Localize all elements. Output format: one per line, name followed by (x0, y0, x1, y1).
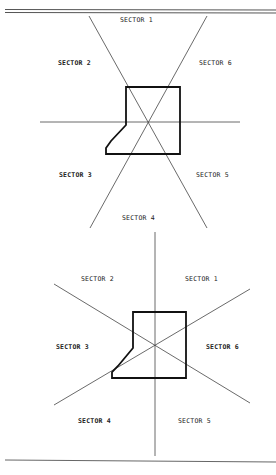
header-rule-top (5, 10, 276, 11)
bottom-sector-6-label: SECTOR 6 (206, 343, 239, 351)
bottom-sector-1-label: SECTOR 1 (185, 275, 218, 283)
bottom-sector-5-label: SECTOR 5 (178, 417, 211, 425)
header-rule-bottom (5, 13, 276, 14)
footer-rule (5, 460, 276, 462)
top-sector-3-label: SECTOR 3 (59, 171, 92, 179)
object-outline (106, 87, 180, 154)
top-sector-4-label: SECTOR 4 (122, 214, 155, 222)
top-sector-2-label: SECTOR 2 (58, 59, 91, 67)
object-outline (112, 312, 186, 378)
bottom-sector-3-label: SECTOR 3 (56, 343, 89, 351)
bottom-sector-4-label: SECTOR 4 (78, 417, 111, 425)
top-sector-5-label: SECTOR 5 (196, 171, 229, 179)
top-sector-diagram (40, 16, 240, 228)
top-sector-6-label: SECTOR 6 (199, 59, 232, 67)
bottom-sector-2-label: SECTOR 2 (81, 275, 114, 283)
top-sector-1-label: SECTOR 1 (120, 16, 153, 24)
diagram-canvas (0, 0, 276, 475)
